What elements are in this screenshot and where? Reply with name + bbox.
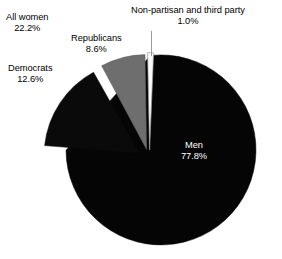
label-all-women-percent: 22.2% [6,23,48,34]
label-nonpartisan-percent: 1.0% [131,16,245,27]
label-democrats-percent: 12.6% [8,74,53,85]
label-republicans: Republicans 8.6% [71,33,122,56]
label-democrats-category: Democrats [8,63,53,74]
pie-chart-figure: All women 22.2% Democrats 12.6% Republic… [0,0,282,259]
label-men: Men 77.8% [166,140,222,163]
label-democrats: Democrats 12.6% [8,63,53,86]
label-republicans-percent: 8.6% [71,44,122,55]
label-nonpartisan-category: Non-partisan and third party [131,5,245,16]
label-nonpartisan: Non-partisan and third party 1.0% [131,5,245,28]
label-all-women-category: All women [6,12,48,23]
label-all-women: All women 22.2% [6,12,48,35]
label-men-percent: 77.8% [166,151,222,162]
pie-chart-graphic [0,0,282,259]
label-republicans-category: Republicans [71,33,122,44]
label-men-category: Men [166,140,222,151]
